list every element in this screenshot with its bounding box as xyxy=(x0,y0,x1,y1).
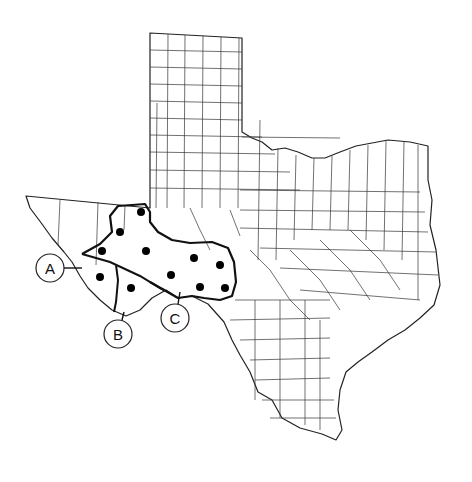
state-outline xyxy=(26,33,440,440)
occurrence-dot xyxy=(96,273,104,281)
occurrence-dot xyxy=(196,283,204,291)
occurrence-dot xyxy=(190,254,198,262)
texas-county-map: ABC xyxy=(0,0,472,482)
region-label-a: A xyxy=(36,254,64,282)
region-label-b: B xyxy=(104,320,132,348)
svg-text:A: A xyxy=(45,260,55,277)
occurrence-dot xyxy=(142,247,150,255)
occurrence-dot xyxy=(116,228,124,236)
occurrence-dot xyxy=(127,284,135,292)
occurrence-dot xyxy=(221,284,229,292)
svg-text:B: B xyxy=(113,326,123,343)
svg-text:C: C xyxy=(170,310,181,327)
occurrence-dot xyxy=(216,261,224,269)
occurrence-dot xyxy=(137,208,145,216)
occurrence-dot xyxy=(167,271,175,279)
region-label-c: C xyxy=(161,304,189,332)
occurrence-dot xyxy=(98,247,106,255)
